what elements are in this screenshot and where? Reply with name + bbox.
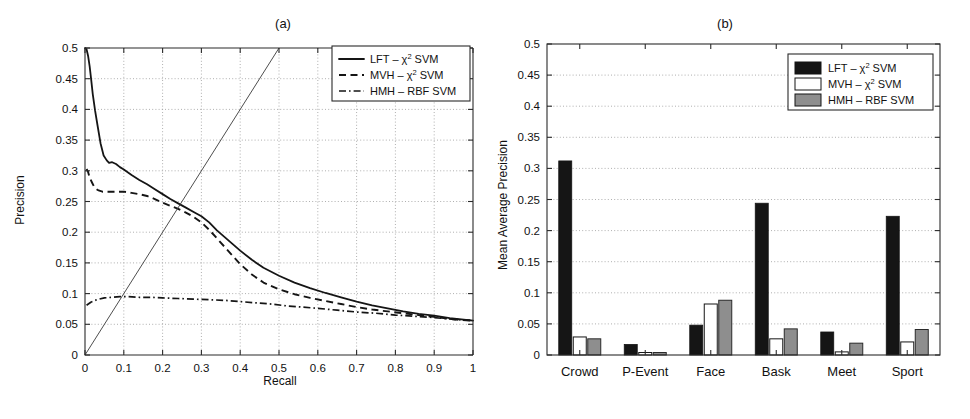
y-tick-label: 0.45 <box>518 69 540 81</box>
category-label-p-event: P-Event <box>622 364 669 379</box>
y-tick-label: 0.15 <box>56 257 78 269</box>
legend-swatch-2 <box>795 94 821 106</box>
legend-label-1: MVH – χ2 SVM <box>370 68 444 81</box>
y-tick-label: 0.05 <box>518 318 540 330</box>
y-tick-label: 0.25 <box>518 194 540 206</box>
y-tick-label: 0.5 <box>62 42 78 54</box>
panel-a-title: (a) <box>275 16 291 31</box>
x-tick-label: 0.5 <box>271 362 287 374</box>
panel-b-mean-average-precision: (b) 00.050.10.150.20.250.30.350.40.450.5… <box>485 0 970 419</box>
y-tick-label: 0.3 <box>524 162 540 174</box>
y-tick-label: 0 <box>534 349 540 361</box>
legend-label-0: LFT – χ2 SVM <box>828 61 896 74</box>
y-tick-label: 0.1 <box>524 287 540 299</box>
category-label-sport: Sport <box>892 364 923 379</box>
category-label-face: Face <box>696 364 725 379</box>
legend-swatch-0 <box>795 62 821 74</box>
precision-recall-chart: (a) 00.10.20.30.40.50.60.70.80.9100.050.… <box>0 0 485 419</box>
bar-bask-series-0 <box>755 203 768 355</box>
x-tick-label: 0.1 <box>116 362 132 374</box>
x-tick-label: 0.9 <box>426 362 442 374</box>
bar-crowd-series-0 <box>559 161 572 355</box>
x-tick-label: 1 <box>470 362 476 374</box>
y-tick-label: 0.2 <box>524 225 540 237</box>
legend-label-1: MVH – χ2 SVM <box>828 77 902 90</box>
category-label-crowd: Crowd <box>561 364 599 379</box>
grid-lines-b <box>547 75 940 324</box>
y-tick-label: 0.1 <box>62 288 78 300</box>
legend-a: LFT – χ2 SVMMVH – χ2 SVMHMH – RBF SVM <box>332 46 470 101</box>
x-tick-label: 0 <box>82 362 88 374</box>
legend-label-0: LFT – χ2 SVM <box>370 52 438 65</box>
bar-face-series-1 <box>704 304 717 355</box>
tick-labels-b: 00.050.10.150.20.250.30.350.40.450.5 <box>518 38 541 361</box>
category-label-meet: Meet <box>827 364 856 379</box>
y-tick-label: 0.25 <box>56 196 78 208</box>
bar-face-series-2 <box>719 300 732 355</box>
bar-meet-series-0 <box>821 332 834 355</box>
category-labels-b: CrowdP-EventFaceBaskMeetSport <box>561 364 923 379</box>
legend-swatch-1 <box>795 78 821 90</box>
y-axis-label-b: Mean Average Precision <box>496 140 510 270</box>
y-tick-label: 0.35 <box>56 134 78 146</box>
y-tick-label: 0.45 <box>56 73 78 85</box>
y-tick-label: 0 <box>72 349 78 361</box>
y-tick-label: 0.35 <box>518 131 540 143</box>
category-label-bask: Bask <box>762 364 791 379</box>
x-tick-label: 0.3 <box>193 362 209 374</box>
legend-label-2: HMH – RBF SVM <box>828 94 914 106</box>
y-tick-label: 0.4 <box>524 100 541 112</box>
bar-group-b <box>559 161 929 355</box>
y-tick-label: 0.2 <box>62 226 78 238</box>
x-tick-label: 0.7 <box>349 362 365 374</box>
mean-average-precision-chart: (b) 00.050.10.150.20.250.30.350.40.450.5… <box>485 0 970 419</box>
panel-a-precision-recall: (a) 00.10.20.30.40.50.60.70.80.9100.050.… <box>0 0 485 419</box>
bar-face-series-0 <box>690 325 703 355</box>
y-tick-label: 0.3 <box>62 165 78 177</box>
series-path-2 <box>87 297 473 321</box>
x-tick-label: 0.8 <box>387 362 403 374</box>
bar-bask-series-2 <box>784 329 797 355</box>
bar-crowd-series-2 <box>588 339 601 355</box>
panel-b-title: (b) <box>717 16 733 31</box>
figure-root: (a) 00.10.20.30.40.50.60.70.80.9100.050.… <box>0 0 970 419</box>
y-tick-label: 0.4 <box>62 103 79 115</box>
y-tick-label: 0.15 <box>518 256 540 268</box>
x-tick-label: 0.2 <box>155 362 171 374</box>
legend-label-2: HMH – RBF SVM <box>370 85 456 97</box>
x-tick-label: 0.6 <box>310 362 326 374</box>
y-axis-label-a: Precision <box>13 175 27 224</box>
bar-p-event-series-0 <box>624 344 637 355</box>
y-tick-label: 0.05 <box>56 318 78 330</box>
bar-meet-series-2 <box>850 343 863 355</box>
y-tick-label: 0.5 <box>524 38 540 50</box>
legend-b: LFT – χ2 SVMMVH – χ2 SVMHMH – RBF SVM <box>788 54 933 110</box>
bar-sport-series-2 <box>915 330 928 356</box>
bar-sport-series-0 <box>886 216 899 355</box>
x-axis-label-a: Recall <box>263 374 296 388</box>
x-tick-label: 0.4 <box>232 362 249 374</box>
